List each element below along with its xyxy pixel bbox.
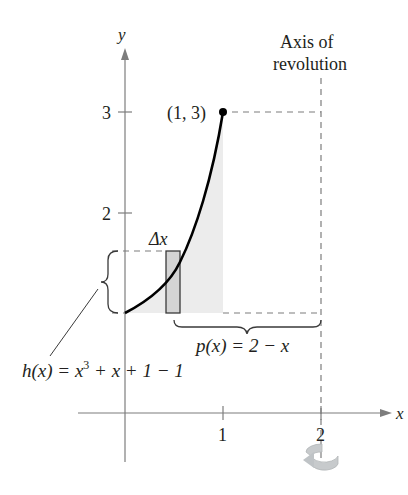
y-tick-label-3: 3 [102, 103, 111, 123]
x-tick-label-1: 1 [218, 425, 227, 445]
h-leader-line [50, 289, 98, 356]
height-brace [101, 251, 118, 313]
solid-of-revolution-diagram: y x 3 2 1 2 Axis of revolution (1, 3) Δx… [0, 0, 408, 495]
h-label-suffix: + x + 1 − 1 [89, 360, 183, 381]
p-label: p(x) = 2 − x [194, 335, 290, 357]
y-axis [121, 48, 129, 462]
point-1-3 [219, 108, 227, 116]
y-axis-arrow-icon [121, 48, 129, 60]
h-label-prefix: h(x) = x [22, 360, 84, 382]
y-tick-label-2: 2 [102, 204, 111, 224]
delta-x-label: Δx [148, 229, 168, 249]
x-axis-label: x [395, 404, 404, 423]
axis-of-revolution-label-line2: revolution [273, 54, 347, 74]
y-axis-label: y [116, 25, 126, 44]
point-label: (1, 3) [167, 103, 206, 124]
distance-brace [174, 320, 321, 334]
axis-of-revolution-label-line1: Axis of [280, 32, 334, 52]
h-label: h(x) = x3 + x + 1 − 1 [22, 358, 184, 382]
x-axis-arrow-icon [380, 409, 392, 417]
